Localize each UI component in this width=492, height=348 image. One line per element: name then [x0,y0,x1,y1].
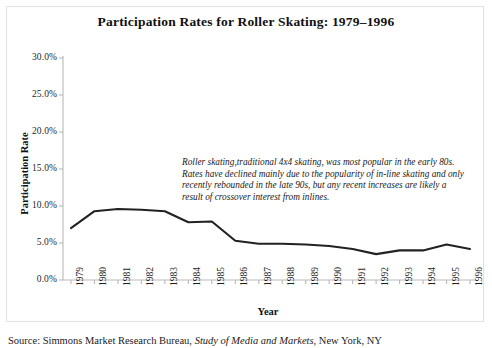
x-axis-tick-label: 1982 [145,267,155,286]
y-axis-tick-label: 30.0% [11,52,57,62]
x-axis-tick-label: 1996 [474,267,484,286]
x-axis-tick-label: 1987 [263,267,273,286]
x-axis-tick-label: 1992 [380,267,390,286]
x-axis-tick-label: 1990 [333,267,343,286]
x-axis-tick-label: 1983 [169,267,179,286]
x-axis-tick-label: 1993 [404,267,414,286]
x-axis-tick-label: 1985 [216,267,226,286]
y-axis-tick-label: 5.0% [11,237,57,247]
x-axis-tick-label: 1980 [98,267,108,286]
x-axis-tick-label: 1991 [357,267,367,286]
x-axis-tick-label: 1986 [239,267,249,286]
x-axis-tick-label: 1994 [427,267,437,286]
source-suffix: , New York, NY [314,335,382,346]
x-axis-tick-label: 1989 [310,267,320,286]
data-series-line [71,209,470,254]
x-axis-tick-label: 1981 [122,267,132,286]
source-publication: Study of Media and Markets [195,335,314,346]
y-axis-title: Participation Rate [19,114,30,234]
x-axis-tick-label: 1995 [451,267,461,286]
y-axis-tick-label: 0.0% [11,274,57,284]
source-note: Source: Simmons Market Research Bureau, … [8,335,486,346]
y-axis-tick-label: 25.0% [11,89,57,99]
x-axis-tick-label: 1984 [192,267,202,286]
source-prefix: Source: Simmons Market Research Bureau, [8,335,195,346]
x-axis-title: Year [63,306,473,317]
chart-annotation-text: Roller skating,traditional 4x4 skating, … [182,157,466,203]
x-axis-tick-label: 1979 [75,267,85,286]
chart-page: Participation Rates for Roller Skating: … [0,0,492,348]
x-axis-tick-label: 1988 [286,267,296,286]
